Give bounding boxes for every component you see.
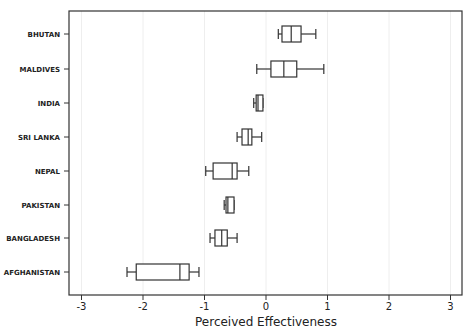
box-pakistan: [224, 197, 234, 213]
x-axis-title: Perceived Effectiveness: [195, 315, 337, 329]
box-bangladesh: [210, 230, 237, 246]
box-india: [254, 95, 263, 111]
box-series: [127, 26, 324, 280]
box-bhutan: [278, 26, 316, 42]
y-category-label: INDIA: [38, 100, 61, 108]
x-tick-label: 3: [447, 301, 453, 312]
iqr-box: [242, 129, 252, 145]
iqr-box: [136, 264, 189, 280]
box-nepal: [206, 163, 249, 179]
iqr-box: [256, 95, 263, 111]
x-tick-label: 1: [324, 301, 330, 312]
iqr-box: [213, 163, 237, 179]
x-tick-label: -2: [138, 301, 148, 312]
box-maldives: [257, 61, 324, 77]
y-category-label: AFGHANISTAN: [4, 269, 60, 277]
iqr-box: [226, 197, 234, 213]
grid-lines: [82, 11, 451, 295]
box-afghanistan: [127, 264, 199, 280]
x-tick-label: 2: [386, 301, 392, 312]
iqr-box: [215, 230, 227, 246]
x-tick-label: 0: [263, 301, 269, 312]
y-category-label: SRI LANKA: [18, 134, 61, 142]
x-axis: -3-2-10123: [77, 295, 454, 312]
x-tick-label: -3: [77, 301, 87, 312]
box-plot-chart: BHUTANMALDIVESINDIASRI LANKANEPALPAKISTA…: [0, 0, 472, 335]
y-category-label: BANGLADESH: [6, 235, 60, 243]
y-category-label: PAKISTAN: [22, 202, 61, 210]
y-category-label: NEPAL: [35, 168, 61, 176]
y-category-label: BHUTAN: [28, 31, 61, 39]
box-sri-lanka: [237, 129, 262, 145]
x-tick-label: -1: [200, 301, 210, 312]
y-category-label: MALDIVES: [20, 66, 61, 74]
y-axis: BHUTANMALDIVESINDIASRI LANKANEPALPAKISTA…: [4, 31, 69, 277]
